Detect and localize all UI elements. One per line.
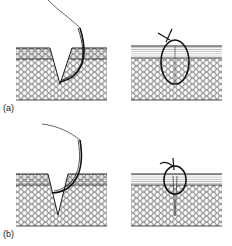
panel-label-b: (b) [3, 229, 14, 239]
panel-b-right [131, 158, 222, 226]
knot [160, 158, 174, 170]
knot [158, 29, 172, 42]
panel-label-a: (a) [3, 103, 14, 113]
suture-thread [42, 124, 80, 140]
panel-a-left [16, 0, 107, 100]
panel-b-left [16, 124, 107, 226]
suture-diagram [0, 0, 232, 246]
panel-a-right [131, 29, 222, 100]
suture-thread [48, 0, 80, 28]
